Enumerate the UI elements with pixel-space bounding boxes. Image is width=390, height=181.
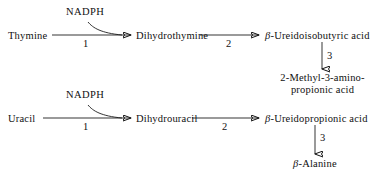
enzyme-label-bottom-step3: 3 [320, 132, 325, 143]
node-ureidoisobutyric-acid: β-Ureidoisobutyric acid [265, 30, 370, 42]
enzyme-label-bottom-step2: 2 [222, 121, 227, 132]
pathway-diagram: Thymine NADPH 1 Dihydrothymine 2 β-Ureid… [0, 0, 390, 181]
node-thymine: Thymine [8, 30, 47, 42]
curve-nadph-bottom [88, 105, 122, 118]
curve-nadph-top [88, 22, 122, 35]
node-methylamino-line2: propionic acid [291, 84, 354, 95]
enzyme-label-top-step2: 2 [226, 38, 231, 49]
enzyme-label-top-step3: 3 [327, 50, 332, 61]
node-ureidopropionic-text: -Ureidopropionic acid [270, 113, 367, 124]
node-alanine-text: -Alanine [298, 158, 336, 169]
node-uracil: Uracil [8, 113, 35, 125]
enzyme-label-bottom-step1: 1 [83, 121, 88, 132]
enzyme-label-top-step1: 1 [83, 38, 88, 49]
node-dihydrothymine: Dihydrothymine [136, 30, 208, 42]
node-beta-alanine: β-Alanine [293, 158, 337, 170]
node-methylamino-line1: 2-Methyl-3-amino- [280, 72, 364, 83]
node-ureidoisobutyric-text: -Ureidoisobutyric acid [270, 30, 369, 41]
cofactor-nadph-bottom: NADPH [66, 89, 104, 100]
node-methyl-amino-propionic-acid: 2-Methyl-3-amino- propionic acid [275, 72, 370, 95]
node-dihydrouracil: Dihydrouracil [136, 113, 198, 125]
node-ureidopropionic-acid: β-Ureidopropionic acid [265, 113, 368, 125]
cofactor-nadph-top: NADPH [66, 6, 104, 17]
